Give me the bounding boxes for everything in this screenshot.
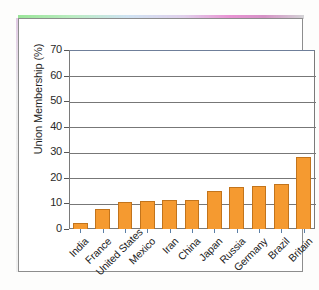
bar bbox=[229, 187, 244, 229]
y-axis-tick-label-wrap: 20 bbox=[31, 172, 62, 183]
bar bbox=[296, 157, 311, 229]
y-axis-tick-label: 50 bbox=[34, 95, 62, 106]
y-axis-tick-label: 60 bbox=[34, 70, 62, 81]
y-axis-tick-label: 70 bbox=[34, 44, 62, 55]
y-axis-tick-label-wrap: 50 bbox=[31, 95, 62, 106]
y-axis-tick-label: 40 bbox=[34, 121, 62, 132]
bar bbox=[95, 209, 110, 229]
y-axis-tick-label-wrap: 40 bbox=[31, 121, 62, 132]
scanned-page: Union Membership (%) 010203040506070 Ind… bbox=[0, 0, 319, 290]
chart-figure-frame: Union Membership (%) 010203040506070 Ind… bbox=[18, 18, 303, 272]
y-axis-tick-label: 20 bbox=[34, 172, 62, 183]
y-axis-tick-label: 10 bbox=[34, 197, 62, 208]
bar bbox=[140, 201, 155, 229]
y-axis-tick-mark bbox=[64, 229, 69, 230]
bar-group bbox=[69, 50, 315, 229]
y-axis-tick-label: 30 bbox=[34, 146, 62, 157]
bar bbox=[207, 191, 222, 229]
bar bbox=[185, 200, 200, 229]
y-axis-tick-label-wrap: 30 bbox=[31, 146, 62, 157]
bar bbox=[118, 202, 133, 229]
y-axis-tick-label-wrap: 60 bbox=[31, 70, 62, 81]
y-axis-tick-label-wrap: 10 bbox=[31, 197, 62, 208]
x-axis-label-group: IndiaFranceUnited StatesMexicoIranChinaJ… bbox=[19, 233, 304, 289]
bar bbox=[274, 184, 289, 229]
y-axis-tick-label-wrap: 70 bbox=[31, 44, 62, 55]
bar bbox=[252, 186, 267, 229]
bar bbox=[162, 200, 177, 229]
